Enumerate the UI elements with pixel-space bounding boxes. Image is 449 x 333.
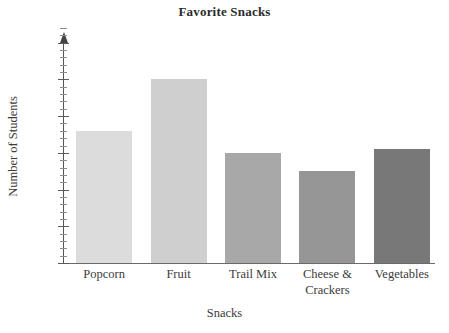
y-axis-minor-tick [60, 197, 67, 198]
x-axis-tick-label-line: Fruit [166, 267, 190, 281]
y-axis-arrow-icon [60, 32, 68, 43]
y-axis-minor-tick [60, 28, 67, 29]
y-axis-minor-tick [60, 65, 67, 66]
y-axis-major-tick [58, 43, 69, 44]
y-axis-minor-tick [60, 182, 67, 183]
bar [299, 171, 355, 263]
y-axis-minor-tick [60, 57, 67, 58]
y-axis-minor-tick [60, 256, 67, 257]
bar [76, 131, 132, 263]
y-axis-minor-tick [60, 109, 67, 110]
y-axis-minor-tick [60, 241, 67, 242]
y-axis-minor-tick [60, 234, 67, 235]
plot-area [63, 28, 435, 263]
x-axis-title: Snacks [0, 306, 449, 321]
bar [225, 153, 281, 263]
y-axis-title: Number of Students [6, 72, 21, 222]
bar [151, 79, 207, 263]
y-axis-minor-tick [60, 101, 67, 102]
chart-title: Favorite Snacks [0, 4, 449, 20]
y-axis-minor-tick [60, 212, 67, 213]
y-axis-minor-tick [60, 175, 67, 176]
y-axis-line [63, 34, 64, 263]
x-axis-tick-label-line: Vegetables [375, 267, 429, 281]
y-axis-minor-tick [60, 131, 67, 132]
y-axis-minor-tick [60, 35, 67, 36]
x-axis-tick-label: Vegetables [355, 266, 449, 282]
y-axis-minor-tick [60, 50, 67, 51]
y-axis-minor-tick [60, 146, 67, 147]
x-axis-tick-label-line: Trail Mix [229, 267, 277, 281]
x-axis-line [63, 263, 435, 264]
y-axis-minor-tick [60, 160, 67, 161]
y-axis-minor-tick [60, 72, 67, 73]
y-axis-major-tick [58, 190, 69, 191]
y-axis-major-tick [58, 263, 69, 264]
y-axis-minor-tick [60, 219, 67, 220]
y-axis-minor-tick [60, 94, 67, 95]
y-axis-major-tick [58, 226, 69, 227]
x-axis-tick-label-line: Cheese & [303, 267, 352, 281]
y-axis-major-tick [58, 79, 69, 80]
y-axis-minor-tick [60, 248, 67, 249]
y-axis-minor-tick [60, 168, 67, 169]
bar [374, 149, 430, 263]
x-axis-tick-label-line: Popcorn [83, 267, 125, 281]
y-axis-major-tick [58, 153, 69, 154]
x-axis-tick-label-line: Crackers [280, 282, 374, 298]
y-axis-minor-tick [60, 123, 67, 124]
x-axis-tick-labels: PopcornFruitTrail MixCheese &CrackersVeg… [63, 266, 435, 308]
y-axis-minor-tick [60, 204, 67, 205]
y-axis-minor-tick [60, 87, 67, 88]
bar-chart: Favorite Snacks 051015202530 PopcornFrui… [0, 0, 449, 333]
y-axis-major-tick [58, 116, 69, 117]
y-axis-minor-tick [60, 138, 67, 139]
